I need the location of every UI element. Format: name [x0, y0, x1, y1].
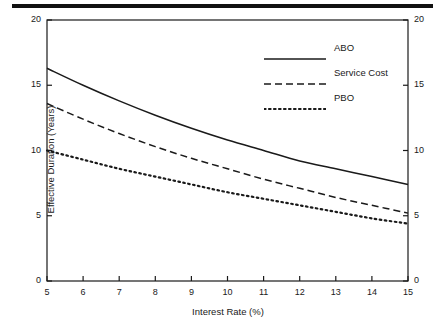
y-tick-label-right: 15 [414, 80, 436, 89]
y-tick-label-right: 20 [414, 15, 436, 24]
y-tick-label-right: 10 [414, 146, 436, 155]
legend-label: ABO [334, 42, 354, 54]
x-tick-label: 5 [36, 288, 58, 297]
y-axis-ticks-right [403, 20, 408, 281]
legend-label: Service Cost [334, 67, 388, 79]
legend-swatch-dotted [264, 97, 326, 100]
y-tick-label-left: 0 [19, 276, 41, 285]
x-tick-label: 11 [253, 288, 275, 297]
x-tick-label: 13 [325, 288, 347, 297]
y-tick-label-left: 5 [19, 211, 41, 220]
chart-figure: 051015200510152056789101112131415 Effect… [0, 0, 445, 324]
x-tick-label: 7 [108, 288, 130, 297]
x-tick-label: 8 [144, 288, 166, 297]
x-tick-label: 12 [289, 288, 311, 297]
legend-label: PBO [334, 92, 354, 104]
x-axis-label: Interest Rate (%) [47, 306, 409, 317]
y-tick-label-left: 15 [19, 80, 41, 89]
axes-frame [47, 20, 408, 281]
y-tick-label-left: 20 [19, 15, 41, 24]
y-axis-label: Effective Duration (Years) [45, 60, 56, 260]
legend-swatch-dashed [264, 72, 326, 75]
legend-swatch-solid [264, 47, 326, 50]
x-tick-label: 14 [361, 288, 383, 297]
y-tick-label-right: 0 [414, 276, 436, 285]
y-tick-label-right: 5 [414, 211, 436, 220]
series-line-pbo [47, 151, 408, 224]
x-tick-label: 10 [217, 288, 239, 297]
series-line-service-cost [47, 104, 408, 214]
y-tick-label-left: 10 [19, 146, 41, 155]
x-tick-label: 15 [397, 288, 419, 297]
x-tick-label: 9 [180, 288, 202, 297]
plot-area [0, 0, 445, 324]
x-tick-label: 6 [72, 288, 94, 297]
x-axis-ticks [47, 276, 408, 281]
